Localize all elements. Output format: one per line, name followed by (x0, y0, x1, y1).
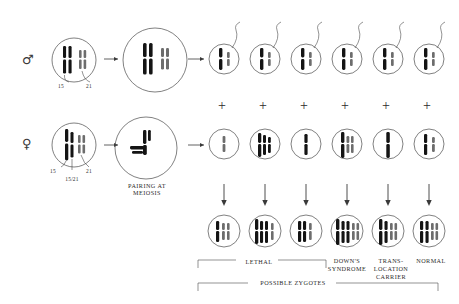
plus-operator: + (218, 98, 226, 114)
arrow-to-sperm-row (188, 52, 208, 66)
outcome-label-carrier-line2: LOCATION (368, 265, 414, 272)
egg-row (206, 124, 456, 166)
zygote-cell (331, 215, 363, 247)
zygote-cell (413, 215, 445, 247)
father-parent-cell (44, 35, 104, 85)
male-symbol: ♂ (22, 52, 34, 67)
plus-operator: + (382, 98, 390, 114)
outcome-label-carrier-line1: TRANS- (370, 257, 412, 264)
arrow-to-egg-row (188, 138, 208, 152)
sperm-cell (209, 22, 240, 74)
zygote-cell (208, 215, 240, 247)
zygote-row (206, 212, 456, 256)
possible-zygotes-label: POSSIBLE ZYGOTES (248, 279, 338, 286)
father-chromosome-15-label: 15 (52, 83, 70, 89)
plus-operator: + (341, 98, 349, 114)
egg-cell (250, 129, 280, 159)
egg-cell (209, 129, 239, 159)
outcome-label-normal: NORMAL (411, 257, 451, 264)
zygote-cell (249, 215, 281, 247)
female-symbol: ♀ (22, 136, 32, 151)
mother-parent-cell (44, 120, 104, 172)
outcome-label-lethal: LETHAL (238, 258, 280, 265)
zygote-cell (372, 215, 404, 247)
fertilization-arrow-row (206, 182, 456, 210)
plus-operator: + (300, 98, 308, 114)
mother-chromosome-15-label: 15 (44, 168, 62, 174)
sperm-cell (250, 22, 281, 74)
mother-translocation-label: 15/21 (54, 176, 90, 182)
father-chromosome-21-label: 21 (80, 83, 98, 89)
meiosis-caption-line2: MEIOSIS (116, 189, 178, 196)
egg-cell (291, 129, 321, 159)
mother-chromosome-21-label: 21 (80, 168, 98, 174)
outcome-label-downs-line2: SYNDROME (324, 265, 370, 272)
sperm-cell (373, 22, 404, 74)
plus-operator: + (423, 98, 431, 114)
sperm-cell (332, 22, 363, 74)
diagram-canvas: ♂ ♀ 15 21 (0, 0, 459, 304)
father-meiosis-cell (120, 25, 190, 95)
mother-meiosis-cell (110, 112, 182, 184)
plus-operator: + (259, 98, 267, 114)
sperm-cell (414, 22, 445, 74)
egg-cell (373, 129, 403, 159)
outcome-label-downs-line1: DOWN'S (327, 257, 367, 264)
sperm-row (206, 26, 456, 82)
egg-cell (332, 129, 362, 159)
sperm-cell (291, 22, 322, 74)
zygote-cell (290, 215, 322, 247)
egg-cell (414, 129, 444, 159)
